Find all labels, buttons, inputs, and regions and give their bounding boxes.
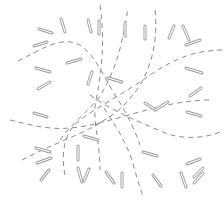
- capsule-segment: [39, 29, 52, 33]
- capsule-segment: [187, 112, 201, 116]
- capsule-segment: [88, 72, 92, 84]
- capsule-segment: [155, 102, 168, 110]
- capsule-segment: [169, 26, 174, 38]
- pattern-svg: [0, 0, 224, 206]
- capsule-segment: [38, 82, 50, 89]
- dashed-curve: [60, 8, 128, 140]
- capsule-segment: [84, 136, 98, 140]
- capsule-segment: [78, 168, 82, 182]
- capsule-segment: [34, 42, 47, 46]
- capsule-segment: [106, 172, 114, 183]
- capsule-segment: [190, 88, 201, 96]
- capsule-segment: [34, 113, 47, 117]
- capsule-segment: [186, 68, 202, 73]
- capsule-segment: [153, 175, 161, 186]
- capsule-segment: [88, 20, 91, 32]
- capsule-segment: [84, 169, 89, 181]
- capsule-segment: [67, 59, 81, 63]
- capsule-segment: [36, 68, 50, 72]
- abstract-line-pattern: [0, 0, 224, 206]
- dashed-curve: [63, 50, 224, 175]
- capsule-segment: [41, 170, 49, 180]
- capsule-segment: [143, 152, 157, 156]
- capsule-segment: [187, 159, 200, 164]
- dashed-curve: [22, 123, 100, 160]
- capsule-segment: [108, 78, 122, 82]
- capsule-segment: [37, 158, 51, 163]
- capsule-segment: [183, 26, 189, 40]
- dashed-curves: [10, 5, 224, 196]
- capsule-segment: [61, 19, 65, 32]
- capsule-segment: [181, 173, 186, 187]
